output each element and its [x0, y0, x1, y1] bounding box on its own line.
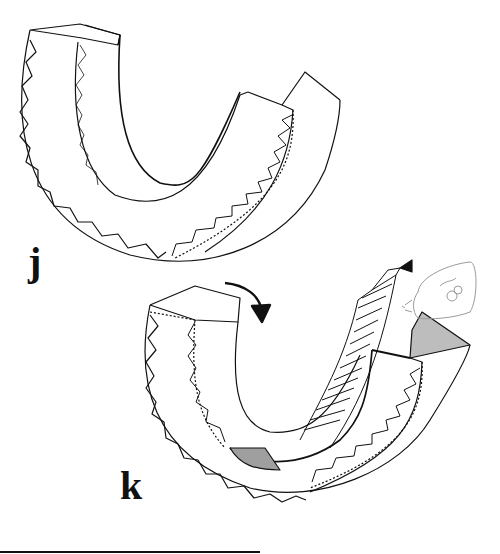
panel-k-shape: [145, 268, 470, 502]
diagram-drawing: [0, 0, 500, 554]
applicator-tube: [402, 262, 476, 319]
figure-canvas: j k: [0, 0, 500, 554]
rotation-arrow: [225, 283, 270, 322]
bottom-divider: [0, 551, 260, 553]
pointer-triangle: [400, 260, 412, 272]
panel-j-shape: [20, 24, 340, 261]
panel-label-k: k: [120, 462, 142, 509]
panel-label-j: j: [28, 238, 41, 285]
